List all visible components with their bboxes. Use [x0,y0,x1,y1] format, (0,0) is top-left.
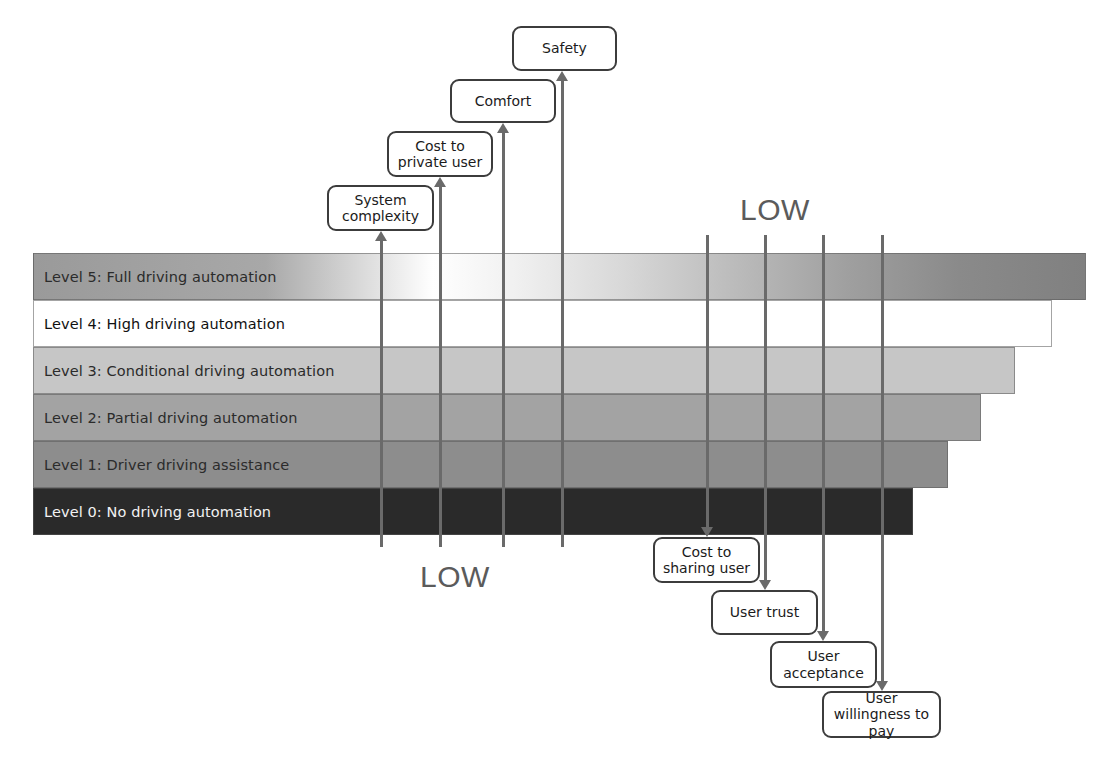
connector-line-cost-sharing-user [706,235,709,527]
factor-callout-label-cost-sharing-user: Cost to sharing user [661,544,752,576]
connector-line-system-complexity [380,240,383,547]
connector-line-user-willingness-to-pay [881,235,884,681]
factor-callout-user-acceptance[interactable]: User acceptance [770,641,877,688]
factor-callout-label-cost-private-user: Cost to private user [395,138,485,170]
factor-callout-label-safety: Safety [542,40,587,56]
automation-level-label-level-2: Level 2: Partial driving automation [44,410,298,426]
connector-line-user-acceptance [822,235,825,631]
connector-line-cost-private-user [439,186,442,547]
automation-level-label-level-0: Level 0: No driving automation [44,504,271,520]
factor-callout-label-user-trust: User trust [730,604,799,620]
factor-callout-comfort[interactable]: Comfort [450,79,556,123]
factor-callout-label-user-acceptance: User acceptance [778,648,869,680]
factor-callout-label-system-complexity: System complexity [335,192,426,224]
arrowhead-down-cost-sharing-user [701,527,713,537]
automation-level-bar-level-5: Level 5: Full driving automation [33,253,1086,300]
factor-callout-label-comfort: Comfort [475,93,532,109]
connector-line-user-trust [764,235,767,580]
arrowhead-up-system-complexity [375,231,387,241]
factor-callout-user-trust[interactable]: User trust [711,590,818,635]
automation-level-bar-level-4: Level 4: High driving automation [33,300,1052,347]
factor-callout-cost-sharing-user[interactable]: Cost to sharing user [653,537,760,583]
connector-line-comfort [502,132,505,547]
factor-callout-user-willingness-to-pay[interactable]: User willingness to pay [822,691,941,738]
low-top-right: LOW [740,193,810,227]
arrowhead-up-cost-private-user [434,177,446,187]
automation-level-label-level-4: Level 4: High driving automation [44,316,285,332]
factor-callout-cost-private-user[interactable]: Cost to private user [387,131,493,177]
automation-level-label-level-3: Level 3: Conditional driving automation [44,363,334,379]
automation-level-bar-level-3: Level 3: Conditional driving automation [33,347,1015,394]
automation-level-bar-level-0: Level 0: No driving automation [33,488,913,535]
automation-level-bar-level-1: Level 1: Driver driving assistance [33,441,948,488]
automation-level-label-level-1: Level 1: Driver driving assistance [44,457,289,473]
factor-callout-safety[interactable]: Safety [512,26,617,71]
factor-callout-label-user-willingness-to-pay: User willingness to pay [830,690,933,738]
arrowhead-up-comfort [497,123,509,133]
arrowhead-down-user-acceptance [817,631,829,641]
arrowhead-up-safety [556,71,568,81]
automation-level-label-level-5: Level 5: Full driving automation [44,269,276,285]
arrowhead-down-user-trust [759,580,771,590]
low-bottom-left: LOW [420,560,490,594]
diagram-canvas: Level 5: Full driving automationLevel 4:… [0,0,1111,768]
connector-line-safety [561,80,564,547]
automation-level-bar-level-2: Level 2: Partial driving automation [33,394,981,441]
factor-callout-system-complexity[interactable]: System complexity [327,185,434,231]
